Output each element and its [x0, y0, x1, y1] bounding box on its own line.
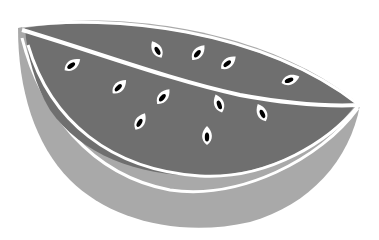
watermelon-illustration	[0, 0, 379, 240]
watermelon-svg	[0, 0, 379, 240]
